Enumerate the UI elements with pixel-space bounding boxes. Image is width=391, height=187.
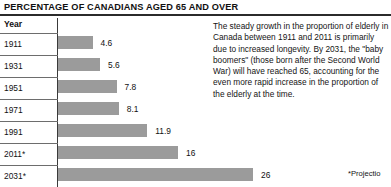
bar-value-label: 5.6 [108,60,120,70]
year-label: 2031* [4,171,26,181]
row-separator [0,77,58,78]
chart-row: 19718.1 [0,99,391,121]
row-separator [0,143,58,144]
axis-header-year: Year [4,19,22,29]
year-label: 1991 [4,127,23,137]
bar-value-label: 11.9 [155,126,171,136]
year-label: 1951 [4,83,23,93]
bar [58,58,100,71]
page-title: PERCENTAGE OF CANADIANS AGED 65 AND OVER [4,2,238,12]
bar-value-label: 4.6 [101,38,113,48]
bar [58,102,119,115]
chart-row: 199111.9 [0,121,391,143]
explanatory-text: The steady growth in the proportion of e… [213,21,389,100]
bar-chart: Year 19114.619315.619517.819718.1199111.… [0,17,200,187]
bar-value-label: 26 [261,170,270,180]
bar-value-label: 8.1 [127,104,139,114]
chart-row: 2031*26 [0,165,391,187]
row-separator [0,55,58,56]
bar-value-label: 16 [186,148,195,158]
bar [58,36,93,49]
projection-footnote: *Projectio [348,169,381,178]
bar [58,80,117,93]
row-separator [0,165,58,166]
year-label: 1931 [4,61,23,71]
year-label: 2011* [4,149,25,159]
infographic-panel: PERCENTAGE OF CANADIANS AGED 65 AND OVER… [0,0,391,187]
year-label: 1911 [4,39,22,49]
year-label: 1971 [4,105,23,115]
bar [58,146,178,159]
row-separator [0,99,58,100]
bar [58,168,253,181]
title-divider [0,14,391,16]
chart-row: 2011*16 [0,143,391,165]
row-separator [0,33,58,34]
bar-value-label: 7.8 [125,82,137,92]
bar [58,124,147,137]
row-separator [0,121,58,122]
